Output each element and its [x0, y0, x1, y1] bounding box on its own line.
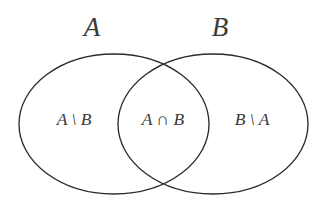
set-b-title: B — [212, 12, 229, 42]
region-label-a-intersect-b: A ∩ B — [141, 109, 185, 129]
region-label-b-minus-a: B \ A — [235, 109, 270, 129]
set-a-title: A — [82, 12, 101, 42]
venn-diagram-canvas: A B A \ B A ∩ B B \ A — [0, 0, 327, 203]
region-label-a-minus-b: A \ B — [56, 109, 92, 129]
venn-diagram: A B A \ B A ∩ B B \ A — [0, 0, 327, 203]
